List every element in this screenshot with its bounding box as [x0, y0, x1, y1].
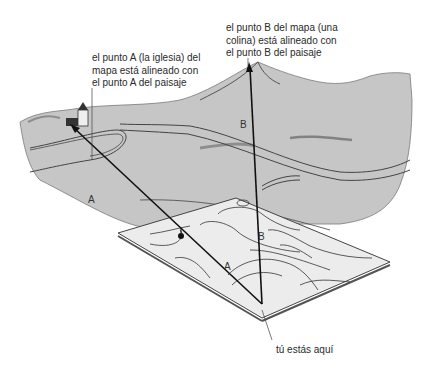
annotation-point-b: el punto B del mapa (una colina) está al… — [226, 22, 396, 60]
map-label-a: A — [224, 261, 231, 272]
annotation-point-a: el punto A (la iglesia) del mapa está al… — [92, 52, 232, 90]
annotation-you-are-here: tú estás aquí — [276, 344, 333, 357]
map-label-b: B — [258, 231, 265, 242]
landscape-label-b: B — [240, 119, 247, 130]
landscape-label-a: A — [88, 194, 95, 205]
